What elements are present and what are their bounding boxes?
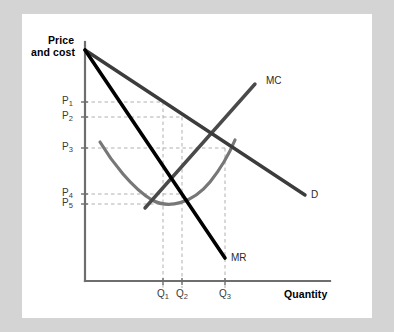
x-tick-label-q1: Q1: [157, 288, 169, 299]
y-tick-base-p2: P: [62, 110, 69, 121]
demand-curve: [85, 50, 305, 195]
y-axis-title-line2: and cost: [31, 46, 75, 58]
y-tick-label-p3: P3: [62, 141, 73, 152]
demand-curve-label: D: [311, 189, 318, 200]
marginal-revenue-curve-label: MR: [231, 252, 247, 263]
x-tick-sub-q2: 2: [184, 292, 188, 301]
y-tick-label-p2: P2: [62, 110, 73, 121]
y-tick-sub-p1: 1: [69, 99, 73, 108]
x-axis-title: Quantity: [284, 288, 327, 300]
x-tick-base-q2: Q: [176, 288, 184, 299]
y-tick-sub-p5: 5: [69, 201, 73, 210]
y-tick-label-p1: P1: [62, 95, 73, 106]
y-tick-sub-p3: 3: [69, 145, 73, 154]
x-tick-label-q3: Q3: [219, 288, 231, 299]
mc-curve: [145, 84, 255, 208]
axes-group: [85, 42, 330, 281]
y-tick-base-p3: P: [62, 141, 69, 152]
x-tick-base-q1: Q: [157, 288, 165, 299]
y-axis-title-line1: Price: [48, 34, 74, 46]
x-tick-sub-q1: 1: [165, 292, 169, 301]
x-tick-label-q2: Q2: [176, 288, 188, 299]
y-tick-base-p1: P: [62, 95, 69, 106]
y-tick-sub-p2: 2: [69, 114, 73, 123]
y-tick-label-p5: P5: [62, 197, 73, 208]
x-tick-base-q3: Q: [219, 288, 227, 299]
mc-curve-label: MC: [266, 75, 282, 86]
figure-root: Price and cost Quantity MC D MR P1P2P3P4…: [0, 0, 394, 332]
x-tick-sub-q3: 3: [227, 292, 231, 301]
y-tick-base-p5: P: [62, 197, 69, 208]
